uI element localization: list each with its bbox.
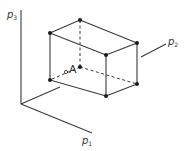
p1-axis-label: p1 <box>82 136 92 147</box>
p3-index: 3 <box>13 14 17 21</box>
p1-index: 1 <box>88 140 92 147</box>
price-space-diagram <box>0 0 194 151</box>
box-edge <box>50 33 106 55</box>
box-edge <box>50 20 80 33</box>
box-edge <box>80 20 137 43</box>
hidden-edge <box>80 67 137 84</box>
box <box>50 20 137 96</box>
p3-axis-label: p3 <box>7 10 17 21</box>
box-hidden-edges <box>50 20 137 84</box>
point-a-label: A <box>69 64 77 75</box>
p1-axis <box>21 104 92 133</box>
p2-axis-stub-right <box>141 44 166 57</box>
vertex-dot <box>104 53 108 57</box>
vertex-dot <box>78 65 82 69</box>
p2-axis-label: p2 <box>168 37 178 48</box>
p2-axis-stub-origin <box>21 87 60 104</box>
p2-index: 2 <box>174 41 178 48</box>
vertex-dot <box>48 31 52 35</box>
vertex-dot <box>104 94 108 98</box>
axes <box>21 10 166 133</box>
box-edge <box>106 84 137 96</box>
box-edge <box>106 43 137 55</box>
vertex-dot <box>78 18 82 22</box>
vertex-dot <box>135 82 139 86</box>
point-a-marker <box>64 70 67 73</box>
vertex-dot <box>48 78 52 82</box>
vertices <box>48 18 139 98</box>
vertex-dot <box>135 41 139 45</box>
